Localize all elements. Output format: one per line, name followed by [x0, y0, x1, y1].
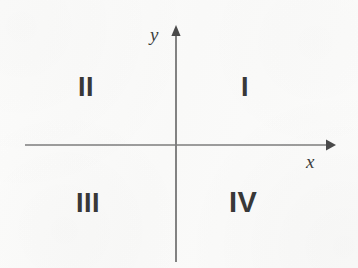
quadrant-label-four: IV	[229, 188, 257, 217]
axes-graphic	[0, 0, 358, 268]
y-axis-arrowhead	[171, 25, 180, 36]
quadrant-label-three: III	[76, 190, 100, 217]
coordinate-plane-figure: y x I II III IV	[0, 0, 358, 268]
quadrant-label-two: II	[78, 74, 94, 101]
y-axis-label: y	[150, 25, 158, 44]
x-axis-arrowhead	[326, 140, 336, 151]
x-axis-label: x	[306, 152, 314, 171]
quadrant-label-one: I	[241, 74, 249, 101]
